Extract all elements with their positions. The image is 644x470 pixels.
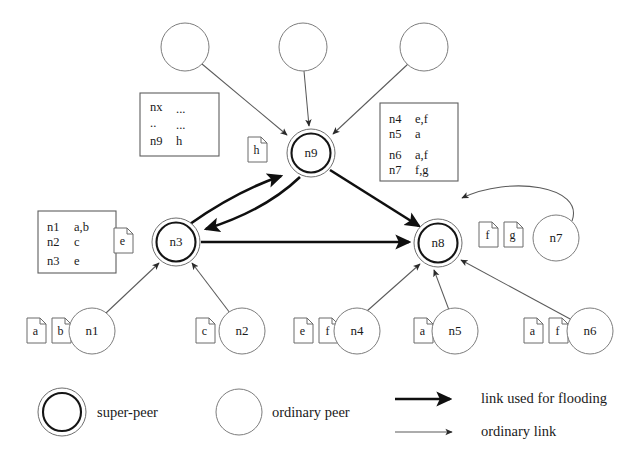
- node-n1[interactable]: n1: [69, 308, 115, 354]
- node-label: n8: [432, 235, 445, 250]
- legend: super-peer ordinary peer link used for f…: [38, 388, 607, 439]
- index-row-key: n9: [150, 134, 163, 148]
- legend-label-ordinary-peer: ordinary peer: [272, 404, 350, 420]
- document-label: g: [510, 228, 516, 242]
- document-label: f: [556, 324, 560, 338]
- index-row-key: n6: [389, 148, 402, 162]
- node-n4[interactable]: n4: [334, 308, 380, 354]
- index-row-value: a: [415, 127, 421, 141]
- index-row-value: e: [74, 254, 80, 268]
- legend-label-flooding-link: link used for flooding: [481, 390, 607, 406]
- ordinary-peer-circle: [400, 23, 448, 71]
- index-row-key: n3: [47, 254, 60, 268]
- node-n2[interactable]: n2: [219, 308, 265, 354]
- diagram-canvas: nx ... .. ... n9 h n4 e,f n5 a n6 a,f n7…: [0, 0, 644, 470]
- index-table-n3: n1 a,b n2 c n3 e: [38, 211, 116, 273]
- document-label: f: [326, 324, 330, 338]
- document-icon: a: [27, 318, 46, 343]
- index-row-key: n1: [47, 220, 60, 234]
- index-row-key: nx: [150, 100, 163, 114]
- index-row-key: n4: [389, 112, 402, 126]
- node-n7[interactable]: n7: [533, 215, 579, 261]
- node-label: n5: [449, 323, 462, 338]
- link-u2-n9: [304, 71, 309, 126]
- document-label: h: [254, 143, 260, 157]
- index-row-value: e,f: [415, 112, 429, 126]
- document-label: a: [530, 324, 536, 338]
- index-row-value: ...: [176, 102, 185, 116]
- node-n9[interactable]: n9: [287, 129, 335, 177]
- node-label: n6: [584, 323, 598, 338]
- node-n3[interactable]: n3: [152, 218, 200, 266]
- node-label: n4: [351, 323, 365, 338]
- index-table-n8: n4 e,f n5 a n6 a,f n7 f,g: [380, 103, 458, 181]
- nodes-group: n9n3n8n7n1n2n4n5n6: [69, 23, 613, 354]
- index-row-value: a,f: [415, 148, 429, 162]
- document-label: c: [202, 324, 207, 338]
- index-table-n9: nx ... .. ... n9 h: [140, 93, 219, 156]
- legend-label-super-peer: super-peer: [97, 404, 158, 420]
- link-n5-n8: [434, 270, 449, 310]
- document-icon: c: [196, 318, 215, 343]
- index-row-value: f,g: [415, 163, 429, 177]
- index-row-key: n2: [47, 235, 60, 249]
- document-label: a: [420, 324, 426, 338]
- node-n8[interactable]: n8: [414, 219, 462, 267]
- document-icon: g: [504, 222, 523, 247]
- legend-item-ordinary-peer: ordinary peer: [216, 389, 350, 435]
- document-icon: h: [248, 137, 267, 162]
- document-label: a: [33, 324, 39, 338]
- node-u2[interactable]: [279, 23, 327, 71]
- index-row-value: c: [74, 235, 80, 249]
- legend-item-super-peer: super-peer: [38, 388, 158, 436]
- document-label: b: [58, 324, 64, 338]
- index-row-value: ...: [176, 118, 185, 132]
- ordinary-peer-circle: [279, 23, 327, 71]
- index-row-key: n5: [389, 127, 402, 141]
- link-n2-n3: [192, 263, 230, 313]
- document-icon: f: [549, 318, 568, 343]
- document-icon: e: [294, 318, 313, 343]
- node-n6[interactable]: n6: [567, 308, 613, 354]
- node-u3[interactable]: [400, 23, 448, 71]
- index-tables-group: nx ... .. ... n9 h n4 e,f n5 a n6 a,f n7…: [38, 93, 458, 273]
- document-label: f: [486, 228, 490, 242]
- node-label: n9: [305, 145, 318, 160]
- index-row-key: n7: [389, 163, 402, 177]
- document-icon: e: [114, 228, 133, 253]
- node-u1[interactable]: [161, 23, 209, 71]
- document-label: e: [300, 324, 305, 338]
- index-row-value: a,b: [74, 220, 89, 234]
- document-label: e: [120, 234, 125, 248]
- document-icon: a: [414, 318, 433, 343]
- legend-item-ordinary-link: ordinary link: [395, 423, 557, 439]
- node-label: n7: [550, 230, 564, 245]
- node-label: n3: [170, 234, 183, 249]
- node-label: n1: [86, 323, 99, 338]
- node-label: n2: [236, 323, 249, 338]
- link-n6-n8: [461, 260, 572, 320]
- ordinary-peer-circle: [161, 23, 209, 71]
- legend-label-ordinary-link: ordinary link: [481, 423, 557, 439]
- index-row-value: h: [176, 134, 183, 148]
- node-n5[interactable]: n5: [432, 308, 478, 354]
- document-icon: b: [52, 318, 71, 343]
- link-n4-n8: [367, 264, 420, 311]
- index-row-key: ..: [150, 116, 156, 130]
- document-icon: f: [479, 222, 498, 247]
- document-icon: a: [524, 318, 543, 343]
- legend-item-flooding-link: link used for flooding: [395, 390, 607, 406]
